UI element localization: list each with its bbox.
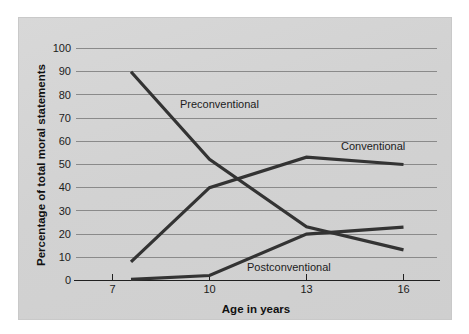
- y-tick-label-0: 0: [65, 274, 71, 286]
- y-tick-label-40: 40: [59, 181, 71, 193]
- x-tick-label-13: 13: [300, 283, 312, 295]
- y-tick-label-50: 50: [59, 158, 71, 170]
- y-tick-label-100: 100: [53, 42, 71, 54]
- y-tick-label-90: 90: [59, 65, 71, 77]
- x-tick-label-7: 7: [109, 283, 115, 295]
- x-axis-title: Age in years: [222, 303, 290, 315]
- y-tick-label-70: 70: [59, 112, 71, 124]
- x-tick-label-10: 10: [203, 283, 215, 295]
- y-tick-label-30: 30: [59, 205, 71, 217]
- series-line-conventional: [131, 157, 404, 262]
- series-label-postconventional: Postconventional: [247, 261, 331, 273]
- y-axis-title: Percentage of total moral statements: [35, 64, 47, 266]
- y-tick-label-60: 60: [59, 135, 71, 147]
- y-tick-label-10: 10: [59, 251, 71, 263]
- line-chart: 100 90 80 70 60 50 40 30 20 10 0 7 10 13…: [0, 0, 469, 334]
- series-label-conventional: Conventional: [341, 140, 405, 152]
- x-tick-label-16: 16: [397, 283, 409, 295]
- y-tick-label-80: 80: [59, 89, 71, 101]
- y-tick-labels: 100 90 80 70 60 50 40 30 20 10 0: [53, 42, 71, 286]
- y-tick-label-20: 20: [59, 228, 71, 240]
- gridlines: [76, 49, 437, 258]
- series-label-preconventional: Preconventional: [180, 98, 259, 110]
- figure-canvas: 100 90 80 70 60 50 40 30 20 10 0 7 10 13…: [0, 0, 469, 334]
- x-tick-labels: 7 10 13 16: [109, 283, 409, 295]
